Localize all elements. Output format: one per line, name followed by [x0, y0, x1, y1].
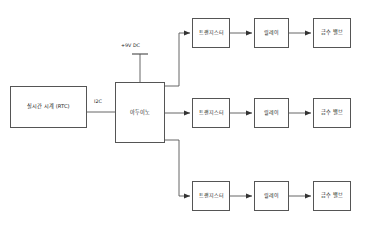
node-transistor-1[interactable]: 트랜지스터 [192, 18, 230, 48]
node-relay-3-label: 릴레이 [262, 193, 281, 199]
node-transistor-2-label: 트랜지스터 [197, 110, 226, 116]
node-transistor-1-label: 트랜지스터 [197, 30, 226, 36]
node-water-valve-1-label: 급수 밸브 [319, 30, 345, 36]
edge-label-power-supply: +9V DC [120, 43, 141, 48]
node-relay-2[interactable]: 릴레이 [254, 98, 289, 128]
node-relay-3[interactable]: 릴레이 [254, 181, 289, 211]
node-arduino-label: 아두이노 [128, 110, 152, 116]
node-transistor-3[interactable]: 트랜지스터 [192, 181, 230, 211]
node-water-valve-2-label: 급수 밸브 [319, 110, 345, 116]
node-relay-2-label: 릴레이 [262, 110, 281, 116]
node-water-valve-1[interactable]: 급수 밸브 [313, 18, 351, 48]
node-realtime-clock-label: 실시간 시계 (RTC) [25, 104, 71, 110]
edge-label-i2c: I2C [93, 99, 103, 104]
node-realtime-clock[interactable]: 실시간 시계 (RTC) [10, 86, 87, 128]
node-water-valve-3-label: 급수 밸브 [319, 193, 345, 199]
node-water-valve-3[interactable]: 급수 밸브 [313, 181, 351, 211]
node-relay-1[interactable]: 릴레이 [254, 18, 289, 48]
node-arduino[interactable]: 아두이노 [115, 82, 165, 143]
block-diagram-canvas: 실시간 시계 (RTC) 아두이노 트랜지스터 릴레이 급수 밸브 트랜지스터 … [0, 0, 368, 225]
node-relay-1-label: 릴레이 [262, 30, 281, 36]
node-water-valve-2[interactable]: 급수 밸브 [313, 98, 351, 128]
node-transistor-2[interactable]: 트랜지스터 [192, 98, 230, 128]
edge-arduino-to-transistor-1 [165, 33, 190, 86]
node-transistor-3-label: 트랜지스터 [197, 193, 226, 199]
edge-arduino-to-transistor-3 [165, 140, 190, 196]
